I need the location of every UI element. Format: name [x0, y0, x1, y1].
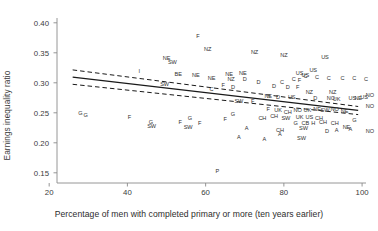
regression-lines — [57, 18, 366, 183]
data-point-label: D — [256, 79, 260, 85]
data-point-label: US — [302, 72, 310, 78]
y-tick-label: 0.40 — [19, 18, 49, 27]
data-point-label: D — [243, 76, 247, 82]
data-point-label: A — [278, 131, 282, 137]
data-point-label: CH — [270, 113, 278, 119]
data-point-label: C — [352, 75, 356, 81]
data-point-label: SW — [321, 107, 330, 113]
data-point-label: CH — [331, 120, 339, 126]
data-point-label: C — [341, 75, 345, 81]
data-point-label: NE — [264, 93, 272, 99]
data-point-label: SW — [184, 124, 193, 130]
data-point-label: CH — [258, 115, 266, 121]
x-tick-label: 40 — [112, 188, 142, 197]
data-point-label: NZ — [227, 76, 234, 82]
data-point-label: F — [196, 33, 199, 39]
data-point-label: NO — [331, 106, 339, 112]
data-point-label: US — [321, 54, 329, 60]
data-point-label: SW — [168, 59, 177, 65]
data-point-label: D — [286, 84, 290, 90]
data-point-label: UK — [333, 96, 341, 102]
data-point-label: D — [276, 94, 280, 100]
data-point-label: SW — [297, 135, 306, 141]
data-point-label: D — [325, 128, 329, 134]
y-tick-label: 0.20 — [19, 138, 49, 147]
data-point-label: F — [298, 77, 301, 83]
x-tick-label: 20 — [34, 188, 64, 197]
data-point-label: NE — [192, 72, 200, 78]
data-point-label: C — [292, 76, 296, 82]
data-point-label: P — [216, 168, 220, 174]
data-point-label: C — [315, 74, 319, 80]
x-axis-title: Percentage of men with completed primary… — [0, 209, 378, 219]
data-point-label: SW — [160, 81, 169, 87]
data-point-label: H — [311, 120, 315, 126]
data-point-label: NZ — [251, 49, 258, 55]
y-tick-label: 0.25 — [19, 108, 49, 117]
data-point-label: C — [280, 79, 284, 85]
data-point-label: A — [349, 126, 353, 132]
y-axis-title: Earnings inequality ratio — [0, 0, 14, 231]
data-point-label: US — [309, 67, 317, 73]
data-point-label: SW — [147, 123, 156, 129]
data-point-label: NZ — [280, 52, 287, 58]
data-point-label: C — [327, 75, 331, 81]
data-point-label: NO — [366, 103, 374, 109]
data-point-label: UK — [304, 107, 312, 113]
data-point-label: I — [138, 68, 139, 74]
data-point-label: D — [231, 84, 235, 90]
y-tick-label: 0.30 — [19, 78, 49, 87]
data-point-label: NO — [293, 107, 301, 113]
data-point-label: F — [198, 120, 201, 126]
data-point-label: F — [296, 84, 299, 90]
data-point-label: A — [335, 127, 339, 133]
data-point-label: A — [245, 125, 249, 131]
x-tick-label: 80 — [269, 188, 299, 197]
data-point-label: G — [293, 120, 297, 126]
data-point-label: CH — [319, 119, 327, 125]
data-point-label: G — [352, 117, 356, 123]
data-point-label: C — [364, 76, 368, 82]
data-point-label: NO — [366, 128, 374, 134]
x-tick-label: 60 — [191, 188, 221, 197]
data-point-label: F — [224, 116, 227, 122]
data-point-label: G — [83, 112, 87, 118]
data-point-label: A — [262, 136, 266, 142]
scatter-chart-figure: Earnings inequality ratio Percentage of … — [0, 0, 378, 231]
data-point-label: D — [272, 83, 276, 89]
data-point-label: G — [78, 110, 82, 116]
y-tick-label: 0.35 — [19, 48, 49, 57]
data-point-label: D — [313, 95, 317, 101]
data-point-label: US — [305, 114, 313, 120]
data-point-label: SW — [299, 125, 308, 131]
data-point-label: NE — [208, 75, 216, 81]
x-tick-label: 100 — [347, 188, 377, 197]
data-point-label: F — [222, 82, 225, 88]
data-point-label: G — [231, 111, 235, 117]
data-point-label: US — [288, 94, 296, 100]
data-point-label: BE — [175, 71, 182, 77]
data-point-label: NE — [341, 108, 349, 114]
data-point-label: NZ — [306, 89, 313, 95]
data-point-label: C — [210, 86, 214, 92]
data-point-label: F — [179, 119, 182, 125]
data-point-label: SW — [281, 115, 290, 121]
y-tick-label: 0.15 — [19, 168, 49, 177]
data-point-label: G — [188, 115, 192, 121]
data-point-label: NO — [366, 92, 374, 98]
data-point-label: F — [251, 98, 254, 104]
data-point-label: F — [128, 114, 131, 120]
data-point-label: A — [237, 134, 241, 140]
data-point-label: NZ — [204, 46, 211, 52]
data-point-label: F — [267, 106, 270, 112]
plot-area: GGIFGSWNESWBESWNENEFNZNENENZDFDCFGFSWNZN… — [57, 18, 366, 183]
data-point-label: SW — [234, 98, 243, 104]
